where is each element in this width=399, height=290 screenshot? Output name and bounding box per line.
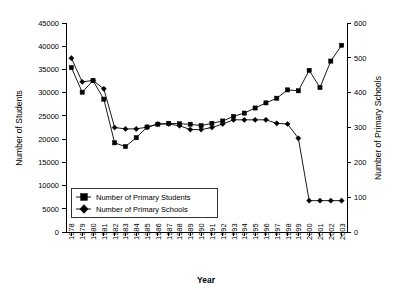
y2-tick-label: 400 — [354, 88, 367, 97]
y-tick-label: 30000 — [38, 88, 59, 97]
y-tick-label: 5000 — [42, 205, 59, 214]
y2-tick-label: 0 — [354, 228, 358, 237]
data-point-students — [285, 88, 289, 92]
data-point-students — [339, 43, 343, 47]
chart-container: 0500010000150002000025000300003500040000… — [0, 0, 399, 290]
y-tick-label: 25000 — [38, 112, 59, 121]
data-point-students — [264, 101, 268, 105]
data-point-students — [296, 89, 300, 93]
data-point-students — [80, 90, 84, 94]
y-tick-label: 0 — [55, 228, 59, 237]
legend-label-students: Number of Primary Students — [96, 193, 191, 202]
legend-label-schools: Number of Primary Schools — [96, 205, 188, 214]
chart-legend: Number of Primary Students Number of Pri… — [71, 188, 217, 217]
y-tick-label: 15000 — [38, 158, 59, 167]
data-point-students — [102, 97, 106, 101]
y-tick-label: 40000 — [38, 42, 59, 51]
y2-tick-label: 300 — [354, 123, 367, 132]
x-axis-title: Year — [197, 275, 216, 285]
y2-tick-label: 500 — [354, 54, 367, 63]
data-point-students — [113, 141, 117, 145]
data-point-students — [69, 65, 73, 69]
y-axis-right-title: Number of Primary Schools — [373, 76, 383, 180]
data-point-students — [329, 59, 333, 63]
data-point-students — [123, 144, 127, 148]
y-tick-label: 45000 — [38, 19, 59, 28]
y-tick-label: 35000 — [38, 65, 59, 74]
data-point-students — [318, 85, 322, 89]
chart-plot: 0500010000150002000025000300003500040000… — [0, 0, 399, 290]
data-point-students — [188, 122, 192, 126]
y-tick-label: 10000 — [38, 181, 59, 190]
y-axis-left-title: Number of Students — [14, 90, 24, 166]
y2-tick-label: 100 — [354, 193, 367, 202]
data-point-students — [275, 96, 279, 100]
data-point-students — [307, 68, 311, 72]
y-tick-label: 20000 — [38, 135, 59, 144]
y2-tick-label: 600 — [354, 19, 367, 28]
chart-background — [0, 0, 399, 290]
legend-marker-students — [81, 194, 88, 201]
y2-tick-label: 200 — [354, 158, 367, 167]
data-point-students — [134, 136, 138, 140]
data-point-students — [242, 111, 246, 115]
data-point-students — [253, 106, 257, 110]
